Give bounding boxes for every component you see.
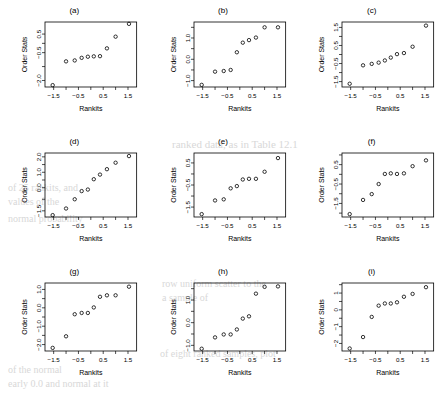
data-point: [229, 187, 232, 190]
data-point: [247, 38, 250, 41]
qq-panel-c: (c)−1.5−0.50.51.5−1.5−0.50.51.5RankitsOr…: [297, 0, 446, 131]
plot-area-d: −1.5−0.50.51.5−1.50.01.02.0RankitsOrder …: [0, 131, 149, 261]
x-tick-label: −0.5: [370, 92, 383, 99]
data-point: [362, 64, 365, 67]
y-tick-label: 2.0: [35, 152, 42, 161]
data-point: [247, 315, 250, 318]
x-tick-label: 1.5: [124, 222, 133, 229]
x-tick-label: 1.5: [421, 92, 430, 99]
y-tick-label: −0.5: [35, 46, 42, 59]
data-point: [127, 285, 130, 288]
y-tick-label: −2.0: [35, 338, 42, 351]
data-point: [276, 156, 279, 159]
x-tick-label: 1.5: [124, 356, 133, 363]
y-axis-title: Order Stats: [318, 36, 325, 72]
plot-area-f: −1.5−0.50.51.5−1.5−0.50.5RankitsOrder St…: [297, 131, 446, 261]
x-tick-label: −1.5: [345, 222, 358, 229]
plot-frame: [342, 153, 434, 217]
x-axis-title: Rankits: [376, 105, 400, 112]
y-tick-label: −2.0: [35, 74, 42, 87]
data-point: [348, 347, 351, 350]
data-point: [229, 68, 232, 71]
y-tick-label: 0.5: [332, 160, 339, 169]
data-point: [200, 212, 203, 215]
data-point: [98, 295, 101, 298]
data-point: [396, 301, 399, 304]
data-point: [222, 333, 225, 336]
data-point: [263, 285, 266, 288]
data-points: [200, 26, 280, 87]
data-points: [348, 24, 428, 86]
x-tick-label: −0.5: [221, 356, 234, 363]
x-axis-title: Rankits: [228, 105, 252, 112]
y-tick-label: −1: [332, 323, 339, 331]
x-tick-label: 1.5: [421, 222, 430, 229]
data-points: [348, 159, 428, 216]
data-point: [213, 199, 216, 202]
data-point: [370, 62, 373, 65]
data-point: [263, 26, 266, 29]
x-axis-title: Rankits: [376, 235, 400, 242]
data-point: [200, 347, 203, 350]
data-point: [411, 45, 414, 48]
y-tick-label: 1.0: [35, 167, 42, 176]
x-tick-label: 0.5: [396, 92, 405, 99]
data-point: [377, 61, 380, 64]
data-points: [200, 156, 280, 215]
data-point: [229, 333, 232, 336]
data-point: [383, 172, 386, 175]
x-tick-label: 0.5: [248, 92, 257, 99]
plot-frame: [194, 22, 286, 87]
data-point: [348, 212, 351, 215]
y-axis-title: Order Stats: [21, 36, 28, 72]
panel-grid: (a)−1.5−0.50.51.5−2.0−0.50.5RankitsOrder…: [0, 0, 446, 395]
data-point: [411, 292, 414, 295]
x-tick-label: 0.5: [396, 356, 405, 363]
data-points: [51, 22, 131, 87]
data-point: [362, 198, 365, 201]
data-point: [254, 36, 257, 39]
data-point: [213, 70, 216, 73]
data-point: [98, 173, 101, 176]
x-axis-title: Rankits: [228, 369, 252, 376]
data-point: [73, 198, 76, 201]
x-tick-label: 0.5: [99, 222, 108, 229]
y-tick-label: 1: [332, 291, 339, 295]
data-point: [241, 317, 244, 320]
data-point: [377, 304, 380, 307]
data-point: [370, 315, 373, 318]
data-point: [105, 167, 108, 170]
qq-panel-h: (h)−1.5−0.50.51.5−1.00.01.0RankitsOrder …: [149, 261, 298, 395]
data-point: [389, 302, 392, 305]
qq-panel-d: (d)−1.5−0.50.51.5−1.50.01.02.0RankitsOrd…: [0, 131, 149, 261]
data-point: [98, 54, 101, 57]
data-point: [383, 59, 386, 62]
x-tick-label: −0.5: [72, 356, 85, 363]
data-point: [64, 207, 67, 210]
data-point: [86, 311, 89, 314]
x-tick-label: −1.5: [48, 92, 61, 99]
x-axis-title: Rankits: [79, 105, 103, 112]
x-tick-label: −1.5: [196, 222, 209, 229]
x-tick-label: −0.5: [72, 92, 85, 99]
data-point: [389, 56, 392, 59]
data-point: [114, 294, 117, 297]
data-point: [92, 178, 95, 181]
x-tick-label: 0.5: [99, 356, 108, 363]
x-tick-label: −0.5: [221, 222, 234, 229]
y-axis-title: Order Stats: [21, 299, 28, 335]
data-point: [92, 55, 95, 58]
data-point: [114, 161, 117, 164]
x-tick-label: 1.5: [124, 92, 133, 99]
data-point: [222, 198, 225, 201]
plot-frame: [342, 283, 434, 351]
data-point: [127, 154, 130, 157]
data-point: [411, 164, 414, 167]
qq-panel-a: (a)−1.5−0.50.51.5−2.0−0.50.5RankitsOrder…: [0, 0, 149, 131]
data-point: [235, 328, 238, 331]
y-tick-label: 1.0: [184, 33, 191, 42]
data-point: [51, 83, 54, 86]
data-point: [235, 51, 238, 54]
plot-frame: [194, 283, 286, 351]
x-tick-label: 1.5: [272, 356, 281, 363]
